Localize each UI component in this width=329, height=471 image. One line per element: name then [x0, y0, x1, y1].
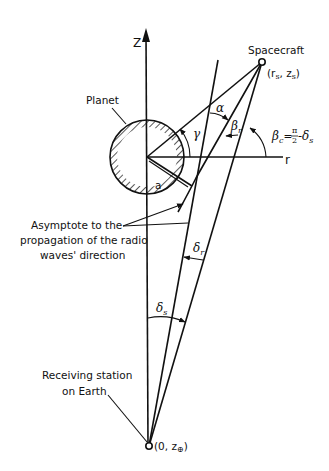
delta-r-label: δr: [193, 241, 205, 257]
asymptote-label-line3: waves' direction: [40, 249, 125, 261]
beta-c-two: 2: [292, 136, 297, 145]
station-label-line1: Receiving station: [42, 369, 132, 381]
spacecraft-label: Spacecraft: [248, 44, 304, 56]
spacecraft-marker: [259, 59, 265, 65]
asymptote-leader-1: [123, 204, 183, 226]
asymptote-label-line1: Asymptote to the: [31, 219, 122, 231]
beta-c-label: βc=: [271, 129, 292, 145]
z-axis-label: Z: [133, 36, 141, 50]
station-to-spacecraft-line: [149, 62, 262, 446]
station-leader-line: [108, 395, 147, 442]
asymptote-line: [149, 60, 218, 446]
beta-c-minus-delta: -δs: [298, 129, 313, 145]
delta-s-label: δs: [156, 301, 167, 317]
radio-occultation-diagram: Z r γ a Spacecraft (rs, zs) Planet γ α β…: [0, 0, 329, 471]
spacecraft-coordinate: (rs, zs): [267, 67, 300, 81]
planet-to-spacecraft-line: [147, 62, 262, 157]
planet-leader-line: [112, 108, 126, 124]
asymptote-leader-2: [123, 223, 188, 226]
radius-label-a: a: [155, 179, 161, 191]
delta-s-arrow: [148, 317, 185, 322]
station-coordinate: (0, z⊕): [154, 440, 188, 454]
beta-r-label: βr: [230, 119, 243, 135]
beta-r-arc: [226, 135, 238, 136]
z-axis-arrow-icon: [142, 28, 150, 42]
delta-r-arrow: [184, 257, 203, 260]
receiving-station-marker: [146, 443, 152, 449]
asymptote-label-line2: propagation of the radio: [20, 234, 148, 246]
alpha-label: α: [216, 101, 224, 115]
gamma-label: γ: [193, 127, 201, 141]
r-axis-label: r: [285, 153, 290, 167]
beta-c-arc: [250, 128, 266, 157]
station-label-line2: on Earth: [62, 385, 107, 397]
beta-c-pi: π: [292, 126, 297, 135]
planet-label: Planet: [86, 94, 119, 106]
bent-ray-path: [178, 62, 262, 212]
